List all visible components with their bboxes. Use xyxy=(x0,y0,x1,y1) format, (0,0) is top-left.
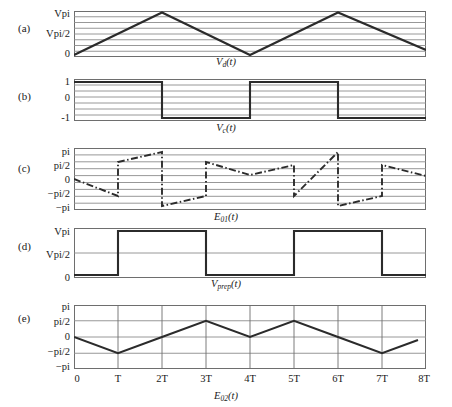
panel-e-ytick-zero: 0 xyxy=(65,332,70,343)
panel-b-plot xyxy=(74,79,426,121)
panel-e-label: (e) xyxy=(18,312,30,324)
panel-c-caption-tail: (t) xyxy=(228,211,238,222)
panel-c-ytick-pi-2: pi/2 xyxy=(54,161,70,172)
panel-e: (e) pi pi/2 0 −pi/2 −pi xyxy=(0,296,452,407)
panel-a-ytick-vpi-2: Vpi/2 xyxy=(46,29,70,40)
panel-c-ytick-pi: pi xyxy=(62,147,70,158)
panel-d-caption-symbol: V xyxy=(211,278,217,289)
panel-a-ytick-vpi: Vpi xyxy=(54,9,70,20)
panel-d-caption-subscript: prep xyxy=(218,282,231,291)
panel-e-ytick-neg-pi-2: −pi/2 xyxy=(48,347,70,358)
panel-b-caption: Vc(t) xyxy=(0,122,452,133)
panel-a: (a) Vpi Vpi/2 0 Vd(t) xyxy=(0,0,452,72)
panel-c-caption: E01(t) xyxy=(0,211,452,222)
panel-e-ytick-pi-2: pi/2 xyxy=(54,317,70,328)
panel-d-plot xyxy=(74,228,426,278)
panel-a-caption-subscript: d xyxy=(222,60,226,69)
panel-d-ytick-vpi: Vpi xyxy=(54,227,70,238)
panel-a-caption: Vd(t) xyxy=(0,56,452,67)
panel-a-plot xyxy=(74,11,426,57)
panel-e-caption-symbol: E xyxy=(214,390,220,401)
panel-e-xtick-2T: 2T xyxy=(156,374,168,385)
panel-e-xtick-4T: 4T xyxy=(244,374,256,385)
panel-e-caption-subscript: 02 xyxy=(221,394,229,403)
panel-e-xtick-0: 0 xyxy=(74,374,79,385)
panel-e-plot xyxy=(74,305,426,369)
panel-d-caption: Vprep(t) xyxy=(0,278,452,289)
panel-e-xtick-1T: T xyxy=(115,374,121,385)
panel-d-caption-tail: (t) xyxy=(231,278,241,289)
panel-e-xtick-7T: 7T xyxy=(376,374,388,385)
panel-c-ytick-zero: 0 xyxy=(65,175,70,186)
panel-b-label: (b) xyxy=(18,90,31,102)
panel-e-caption-tail: (t) xyxy=(228,390,238,401)
panel-c-ytick-neg-pi-2: −pi/2 xyxy=(48,189,70,200)
panel-e-ytick-pi: pi xyxy=(62,302,70,313)
panel-a-caption-tail: (t) xyxy=(226,56,236,67)
panel-b-caption-tail: (t) xyxy=(226,122,236,133)
panel-c-plot xyxy=(74,148,426,210)
panel-d: (d) Vpi Vpi/2 0 Vprep(t) xyxy=(0,222,452,296)
figure-waveform-timing-diagram: (a) Vpi Vpi/2 0 Vd(t) (b) 1 xyxy=(0,0,452,407)
panel-b-caption-subscript: c xyxy=(223,126,226,135)
panel-b-caption-symbol: V xyxy=(216,122,222,133)
panel-e-xtick-3T: 3T xyxy=(200,374,212,385)
panel-e-xtick-5T: 5T xyxy=(288,374,300,385)
panel-d-ytick-vpi-2: Vpi/2 xyxy=(46,250,70,261)
panel-a-label: (a) xyxy=(18,22,30,34)
panel-b: (b) 1 0 -1 Vc(t) xyxy=(0,72,452,142)
panel-e-xtick-6T: 6T xyxy=(332,374,344,385)
panel-c-label: (c) xyxy=(18,162,30,174)
panel-d-label: (d) xyxy=(18,240,31,252)
panel-c-caption-symbol: E xyxy=(214,211,220,222)
panel-e-caption: E02(t) xyxy=(0,390,452,401)
panel-b-ytick-zero: 0 xyxy=(65,93,70,104)
panel-b-ytick-one: 1 xyxy=(65,77,70,88)
panel-c: (c) pi pi/2 0 −pi/2 −pi E01(t) xyxy=(0,142,452,222)
panel-e-ytick-neg-pi: −pi xyxy=(56,362,70,373)
panel-e-xtick-8T: 8T xyxy=(418,374,430,385)
